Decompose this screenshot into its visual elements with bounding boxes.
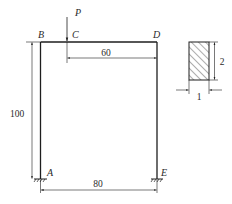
node-label-D: D xyxy=(152,29,161,40)
section-height-label: 2 xyxy=(220,57,225,67)
node-label-A: A xyxy=(46,167,54,178)
cross-section xyxy=(176,42,222,94)
dimension-label-60: 60 xyxy=(101,48,111,58)
frame-members xyxy=(41,42,158,179)
section-width-label: 1 xyxy=(197,92,202,102)
dimension-label-80: 80 xyxy=(93,179,103,189)
dimension-height xyxy=(26,42,40,179)
load-label-P: P xyxy=(74,7,81,18)
hatched-rectangle xyxy=(189,42,209,80)
frame-diagram: P B C D A E 60 100 80 2 1 xyxy=(0,0,232,204)
node-label-C: C xyxy=(72,29,79,40)
node-label-E: E xyxy=(160,167,167,178)
dimension-label-100: 100 xyxy=(10,109,25,119)
node-label-B: B xyxy=(38,29,44,40)
